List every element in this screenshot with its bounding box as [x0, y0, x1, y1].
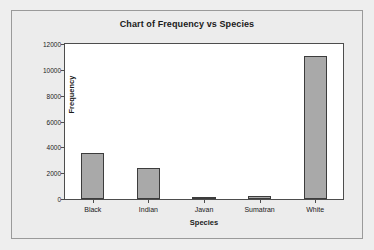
y-axis-tick-mark [61, 44, 65, 45]
x-axis-tick-label: Sumatran [244, 206, 274, 213]
chart-title: Chart of Frequency vs Species [12, 19, 362, 29]
y-axis-tick-mark [61, 70, 65, 71]
plot-area: Frequency Species 0200040006000800010000… [64, 43, 344, 200]
x-axis-tick-mark [315, 199, 316, 203]
bar [304, 56, 327, 199]
y-axis-tick-label: 6000 [35, 118, 61, 125]
plot-inner: Frequency Species 0200040006000800010000… [65, 44, 343, 199]
y-axis-tick-mark [61, 122, 65, 123]
x-axis-tick-label: Indian [139, 206, 158, 213]
x-axis-label: Species [65, 218, 343, 227]
x-axis-tick-mark [204, 199, 205, 203]
chart-figure: Chart of Frequency vs Species Frequency … [11, 10, 363, 239]
x-axis-tick-label: Black [84, 206, 101, 213]
x-axis-tick-mark [148, 199, 149, 203]
y-axis-tick-label: 2000 [35, 170, 61, 177]
y-axis-tick-mark [61, 173, 65, 174]
y-axis-tick-mark [61, 96, 65, 97]
y-axis-tick-label: 10000 [35, 66, 61, 73]
y-axis-label: Frequency [67, 55, 76, 135]
bar [81, 153, 104, 199]
bar [137, 168, 160, 199]
x-axis-tick-label: White [306, 206, 324, 213]
y-axis-tick-label: 0 [35, 196, 61, 203]
y-axis-tick-label: 8000 [35, 92, 61, 99]
y-axis-tick-label: 4000 [35, 144, 61, 151]
y-axis-tick-mark [61, 147, 65, 148]
x-axis-tick-mark [93, 199, 94, 203]
x-axis-tick-label: Javan [195, 206, 214, 213]
x-axis-tick-mark [260, 199, 261, 203]
y-axis-tick-label: 12000 [35, 41, 61, 48]
y-axis-tick-mark [61, 199, 65, 200]
